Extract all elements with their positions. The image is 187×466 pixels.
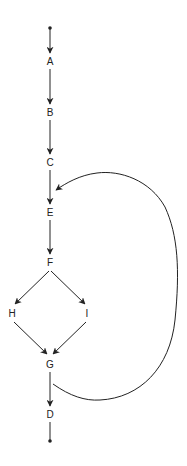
edge-h-g bbox=[14, 322, 47, 354]
node-i: I bbox=[86, 308, 89, 319]
edge-f-i bbox=[51, 271, 85, 304]
node-h: H bbox=[8, 308, 15, 319]
control-flow-diagram: A B C E F H I G D bbox=[0, 0, 187, 466]
node-a: A bbox=[47, 56, 54, 67]
node-g: G bbox=[46, 359, 54, 370]
edge-i-g bbox=[53, 322, 86, 354]
edge-g-e-loop bbox=[53, 172, 178, 400]
edge-f-h bbox=[15, 271, 49, 304]
node-f: F bbox=[47, 257, 53, 268]
node-d: D bbox=[46, 409, 53, 420]
node-e: E bbox=[47, 207, 54, 218]
end-terminal-dot bbox=[48, 439, 52, 443]
node-c: C bbox=[46, 157, 53, 168]
node-b: B bbox=[47, 107, 54, 118]
